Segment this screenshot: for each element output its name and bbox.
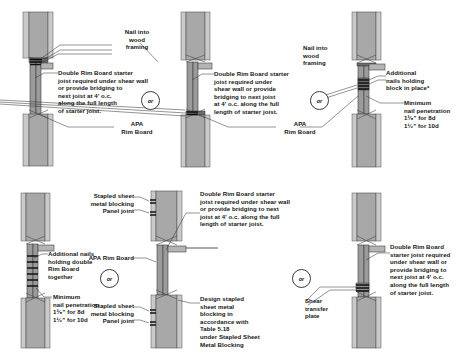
callout-double-rim-board-starter-joist-top-center: Double Rim Board starter joist required … <box>214 70 310 116</box>
figure-canvas: Nail into wood framing Double Rim Board … <box>0 0 468 359</box>
callout-stapled-sheet-metal-blocking-lower-bottom-center: Stapled sheet metal blocking <box>78 302 134 317</box>
callout-shear-transfer-plate-bottom-right: Shear transfer plate <box>305 297 345 320</box>
callout-nail-into-wood-framing-top-right: Nail into wood framing <box>303 44 347 67</box>
or-bubble-bottom-1[interactable]: or <box>100 269 119 288</box>
or-bubble-bottom-2[interactable]: or <box>292 269 311 288</box>
or-bubble-top-2[interactable]: or <box>310 91 329 110</box>
callout-apa-rim-board-top-left: APA Rim Board <box>114 120 160 135</box>
callout-minimum-nail-penetration-top-right: Minimum nail penetration <box>404 99 468 114</box>
callout-penetration-8d-top-right: 1³⁄₈" for 8d <box>404 114 468 122</box>
callout-apa-rim-board-top-center: APA Rim Board <box>277 120 323 135</box>
callout-penetration-10d-top-right: 1¹⁄₂" for 10d <box>404 122 468 130</box>
callout-double-rim-board-starter-joist-bottom-right: Double Rim Board starter joist required … <box>390 243 466 296</box>
callout-stapled-sheet-metal-blocking-upper-bottom-center: Stapled sheet metal blocking <box>78 192 134 207</box>
callout-double-rim-board-starter-joist-bottom-center: Double Rim Board starter joist required … <box>200 190 312 228</box>
callout-panel-joint-upper-bottom-center: Panel joint <box>78 207 134 215</box>
callout-panel-joint-lower-bottom-center: Panel joint <box>78 317 134 325</box>
detail-bottom-right <box>305 193 390 348</box>
callout-additional-nails-holding-block-top-right: Additional nails holding block in place* <box>386 69 464 92</box>
callout-apa-rim-board-bottom-center: APA Rim Board <box>72 254 134 262</box>
callout-nail-into-wood-framing-top-left: Nail into wood framing <box>113 28 161 51</box>
callout-design-stapled-sheet-metal-blocking-bottom-center: Design stapled sheet metal blocking in a… <box>200 295 276 348</box>
or-bubble-top-1[interactable]: or <box>141 91 160 110</box>
